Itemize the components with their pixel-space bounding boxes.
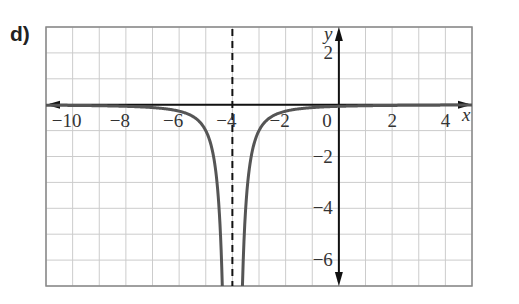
y-axis-up-arrow-icon	[335, 27, 343, 41]
x-tick-label: 2	[387, 110, 397, 131]
x-tick-label: −6	[163, 110, 183, 131]
tick-labels: −10−8−6−4−20242−2−4−6xy	[52, 23, 471, 270]
x-tick-label: −2	[270, 110, 290, 131]
x-tick-label: −8	[110, 110, 130, 131]
y-tick-label: 2	[323, 42, 333, 63]
y-tick-label: −4	[313, 197, 334, 218]
x-tick-label: 4	[441, 110, 451, 131]
y-axis-down-arrow-icon	[335, 272, 343, 286]
graph: −10−8−6−4−20242−2−4−6xy	[0, 0, 519, 304]
x-axis-label: x	[461, 104, 471, 125]
x-tick-label: −10	[52, 110, 82, 131]
x-tick-label: 0	[322, 110, 332, 131]
grid-lines	[46, 27, 472, 286]
y-tick-label: −2	[313, 146, 333, 167]
y-tick-label: −6	[313, 249, 333, 270]
curve-right-branch	[242, 105, 472, 286]
y-axis-label: y	[322, 23, 333, 44]
x-tick-label: −4	[216, 110, 237, 131]
